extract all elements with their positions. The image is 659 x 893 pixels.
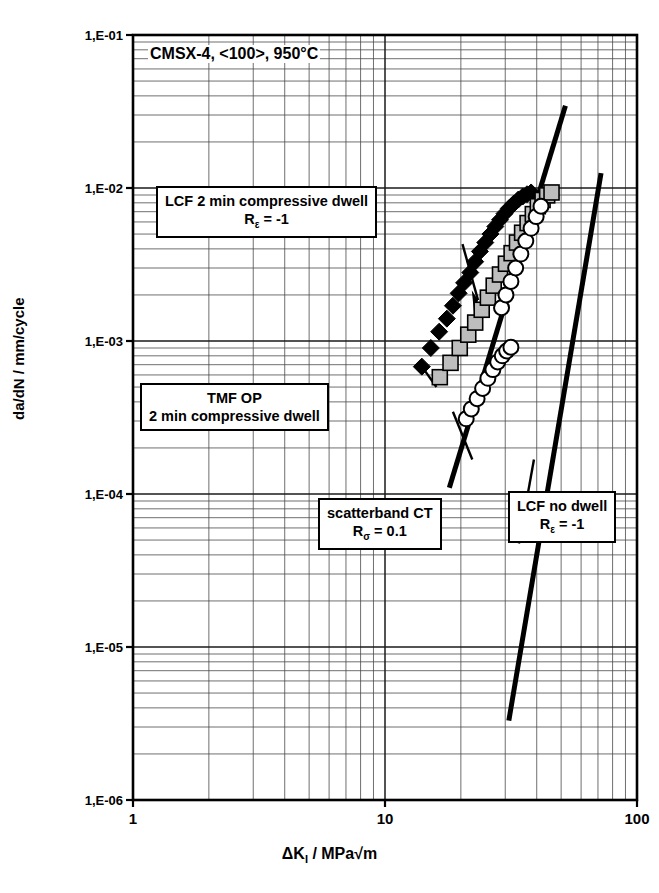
data-point	[508, 261, 523, 276]
ytick-label-4: 1,E-05	[43, 640, 123, 655]
x-axis-title: ΔKI / MPa√m	[0, 845, 659, 865]
data-point	[503, 340, 518, 355]
ytick-label-1: 1,E-02	[43, 181, 123, 196]
x-axis-title-pre: ΔK	[282, 845, 305, 862]
xtick-label-2: 100	[607, 810, 659, 827]
xtick-label-1: 10	[355, 810, 415, 827]
data-point	[443, 355, 458, 370]
callout-lcf-no-dwell-line2: Rε = -1	[517, 515, 607, 536]
callout-tmf-op-line2: 2 min compressive dwell	[149, 407, 320, 425]
callout-lcf-dwell-line1: LCF 2 min compressive dwell	[165, 192, 368, 210]
callout-tmf-op-line1: TMF OP	[149, 389, 320, 407]
ytick-label-0: 1,E-01	[43, 28, 123, 43]
callout-lcf-no-dwell-line1: LCF no dwell	[517, 497, 607, 515]
callout-lcf-dwell: LCF 2 min compressive dwell Rε = -1	[156, 186, 377, 238]
callout-scatterband-line2: Rσ = 0.1	[327, 522, 433, 543]
r-symbol: R	[353, 523, 363, 539]
ytick-label-5: 1,E-06	[43, 793, 123, 808]
r-symbol: R	[540, 516, 550, 532]
r-value: = 0.1	[370, 523, 407, 539]
fatigue-crack-growth-chart	[0, 0, 659, 893]
r-value: = -1	[259, 211, 288, 227]
y-axis-title-text: da/dN / mm/cycle	[10, 80, 27, 420]
callout-lcf-dwell-line2: Rε = -1	[165, 210, 368, 231]
plot-area	[0, 0, 659, 893]
data-point	[544, 185, 559, 200]
ytick-label-2: 1,E-03	[43, 334, 123, 349]
callout-scatterband-ct: scatterband CT Rσ = 0.1	[318, 498, 442, 550]
ytick-label-3: 1,E-04	[43, 487, 123, 502]
data-point	[432, 370, 447, 385]
callout-lcf-no-dwell: LCF no dwell Rε = -1	[508, 491, 616, 543]
xtick-label-0: 1	[103, 810, 163, 827]
y-axis-title: da/dN / mm/cycle	[10, 80, 27, 300]
r-value: = -1	[555, 516, 584, 532]
callout-tmf-op: TMF OP 2 min compressive dwell	[140, 383, 329, 431]
r-symbol: R	[244, 211, 254, 227]
callout-scatterband-line1: scatterband CT	[327, 504, 433, 522]
x-axis-title-post: / MPa√m	[308, 845, 377, 862]
chart-root: 1,E-01 1,E-02 1,E-03 1,E-04 1,E-05 1,E-0…	[0, 0, 659, 893]
chart-title: CMSX-4, <100>, 950°C	[148, 45, 320, 63]
data-point	[534, 199, 549, 214]
